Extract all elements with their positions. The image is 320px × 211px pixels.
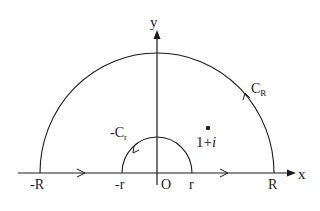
outer-arc-label-sub: R [260,88,266,98]
point-label-imag: i [212,134,216,150]
outer-arc-label: CR [251,81,266,98]
x-axis-label: x [298,166,306,182]
inner-arc-label-sub: r [124,132,127,142]
tick-label-r: r [189,177,194,192]
inner-arc-label-main: -C [110,125,124,140]
x-axis-arrowhead-icon [287,170,296,177]
tick-label-R: R [268,177,278,192]
tick-label-neg-R: -R [30,177,45,192]
y-axis-label: y [150,14,158,30]
inner-arc-arrow-icon [133,146,139,153]
tick-label-neg-r: -r [115,177,125,192]
y-axis-arrowhead-icon [154,30,161,39]
origin-label: O [161,177,171,192]
outer-arc-label-main: C [251,81,260,96]
point-label: 1+i [196,134,216,150]
point-1-plus-i [206,126,210,130]
inner-arc-label: -Cr [110,125,127,142]
point-label-real: 1+ [196,134,212,150]
contour-diagram: y x O -R -r r R CR -Cr 1+i [0,0,320,211]
